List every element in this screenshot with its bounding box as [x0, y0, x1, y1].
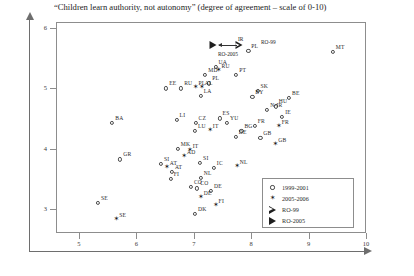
data-point [203, 73, 207, 77]
data-point [212, 166, 216, 170]
legend-marker [267, 183, 278, 192]
point-label: GR [123, 151, 131, 157]
marker-star: ✶ [234, 164, 239, 169]
data-point [195, 186, 199, 190]
legend-marker: ✶ [267, 194, 278, 203]
marker-circle [159, 162, 163, 166]
data-point [96, 201, 100, 205]
marker-circle [218, 116, 222, 120]
y-tick-label: 6 [36, 24, 47, 31]
marker-circle [225, 121, 229, 125]
data-point: ✶ [273, 142, 278, 147]
point-label: GB [263, 130, 271, 136]
marker-star: ✶ [273, 142, 278, 147]
y-tick-mark [50, 209, 56, 210]
outer-y-axis-arrowhead [26, 12, 34, 20]
chart-annotation: RO-99 [261, 39, 276, 45]
marker-circle [193, 212, 197, 216]
point-label: FR [258, 118, 265, 124]
legend-item[interactable]: 1999-2001 [267, 182, 349, 193]
marker-triangle-filled [269, 217, 276, 225]
point-label: EE [169, 80, 176, 86]
x-tick-mark [366, 233, 367, 239]
point-label: YU [230, 115, 238, 121]
data-point [250, 95, 254, 99]
data-point [218, 116, 222, 120]
marker-star: ✶ [114, 217, 119, 222]
marker-circle [179, 86, 183, 90]
data-point: ✶ [213, 204, 218, 209]
data-point: ✶ [216, 69, 221, 74]
data-point [225, 121, 229, 125]
point-label: AD [187, 149, 195, 155]
marker-circle [164, 86, 168, 90]
data-point [199, 93, 203, 97]
point-label: CZ [199, 115, 207, 121]
point-label: IE [285, 109, 291, 115]
legend-label: RO-99 [282, 206, 299, 213]
marker-star: ✶ [198, 195, 203, 200]
point-label: BY [255, 89, 263, 95]
x-tick-mark [251, 233, 252, 239]
data-point: ✶ [276, 124, 281, 129]
point-label: RU [221, 63, 229, 69]
legend-item[interactable]: RO-2005 [267, 215, 349, 226]
x-tick-label: 6 [129, 240, 143, 247]
data-point [176, 147, 180, 151]
legend-item[interactable]: ✶2005-2006 [267, 193, 349, 204]
point-label: LU [198, 123, 206, 129]
marker-star: ✶ [199, 86, 204, 91]
data-point [118, 157, 122, 161]
point-label: AT [170, 160, 177, 166]
x-tick-mark [79, 233, 80, 239]
point-label: IT [213, 123, 219, 129]
data-point [234, 134, 238, 138]
point-label: BE [292, 90, 300, 96]
x-tick-label: 5 [72, 240, 86, 247]
marker-circle [118, 157, 122, 161]
y-tick-mark [50, 149, 56, 150]
data-point [193, 128, 197, 132]
data-point [169, 177, 173, 181]
marker-triangle-filled [210, 41, 217, 49]
point-label: AL [205, 80, 213, 86]
marker-circle [169, 177, 173, 181]
x-tick-mark [136, 233, 137, 239]
x-tick-label: 9 [302, 240, 316, 247]
marker-star: ✶ [193, 86, 198, 91]
chart-annotation: RO-2005 [218, 51, 238, 57]
scatter-chart-figure: “Children learn authority, not autonomy”… [0, 0, 414, 276]
marker-circle [234, 73, 238, 77]
x-tick-label: 10 [359, 240, 373, 247]
marker-star: ✶ [164, 165, 169, 170]
data-point [198, 161, 202, 165]
marker-circle [287, 96, 291, 100]
marker-circle [199, 93, 203, 97]
data-point [179, 86, 183, 90]
legend-item[interactable]: RO-99 [267, 204, 349, 215]
marker-triangle-open [269, 206, 276, 214]
point-label: DE [214, 183, 222, 189]
marker-star: ✶ [181, 154, 186, 159]
y-tick-mark [50, 88, 56, 89]
chart-legend: 1999-2001✶2005-2006RO-99RO-2005 [262, 178, 354, 228]
marker-circle [193, 128, 197, 132]
data-point: ✶ [207, 128, 212, 133]
x-tick-mark [309, 233, 310, 239]
marker-circle [250, 95, 254, 99]
point-label: ES [223, 110, 230, 116]
marker-circle [258, 136, 262, 140]
data-point: ✶ [164, 165, 169, 170]
data-point [331, 50, 335, 54]
data-point: ✶ [198, 195, 203, 200]
data-point: ✶ [193, 86, 198, 91]
data-point [246, 49, 250, 53]
point-label: DE [239, 129, 247, 135]
x-tick-label: 7 [187, 240, 201, 247]
marker-star: ✶ [270, 196, 275, 201]
marker-circle [176, 147, 180, 151]
data-point: ✶ [234, 164, 239, 169]
marker-circle [203, 73, 207, 77]
point-label: SI [164, 156, 169, 162]
point-label: N-IR [270, 102, 282, 108]
